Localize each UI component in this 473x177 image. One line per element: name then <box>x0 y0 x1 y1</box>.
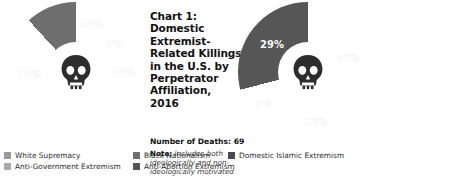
legend-item-anti-government-extremism: Anti-Government Extremism <box>4 162 121 171</box>
skull-icon <box>291 54 325 90</box>
legend-swatch-icon <box>133 152 140 159</box>
slice-label: 10% <box>79 19 103 30</box>
legend-label: Black Nationalism <box>144 151 210 160</box>
legend-label: Anti-Government Extremism <box>15 162 121 171</box>
donut-chart-2: 42% 23% 5% 29% <box>238 2 378 142</box>
slice-label: 7% <box>106 39 123 50</box>
legend-swatch-icon <box>133 163 140 170</box>
legend: White Supremacy Anti-Government Extremis… <box>2 149 471 175</box>
legend-label: Anti-Abortion Extremism <box>144 162 235 171</box>
legend-swatch-icon <box>4 163 11 170</box>
donut-hole-2 <box>278 42 338 102</box>
legend-label: Domestic Islamic Extremism <box>239 151 344 160</box>
donut-hole-1 <box>46 42 106 102</box>
skull-icon <box>59 54 93 90</box>
slice-label: 5% <box>256 99 273 110</box>
legend-item-anti-abortion-extremism: Anti-Abortion Extremism <box>133 162 235 171</box>
legend-item-white-supremacy: White Supremacy <box>4 151 81 160</box>
legend-label: White Supremacy <box>15 151 81 160</box>
infographic-root: 71% 10% 7% 12% Chart 1: Domestic Extremi… <box>0 0 473 177</box>
chart-1-title: Chart 1: Domestic Extremist-Related Kill… <box>150 10 242 109</box>
slice-label: 71% <box>17 69 41 80</box>
legend-swatch-icon <box>4 152 11 159</box>
slice-label: 29% <box>260 39 284 50</box>
slice-label: 12% <box>111 67 135 78</box>
legend-swatch-icon <box>228 152 235 159</box>
chart-1-deaths: Number of Deaths: 69 <box>150 137 242 147</box>
slice-label: 23% <box>304 117 328 128</box>
donut-chart-1: 71% 10% 7% 12% <box>6 2 146 142</box>
slice-label: 42% <box>336 53 360 64</box>
legend-item-black-nationalism: Black Nationalism <box>133 151 210 160</box>
legend-item-domestic-islamic-extremism: Domestic Islamic Extremism <box>228 151 344 160</box>
